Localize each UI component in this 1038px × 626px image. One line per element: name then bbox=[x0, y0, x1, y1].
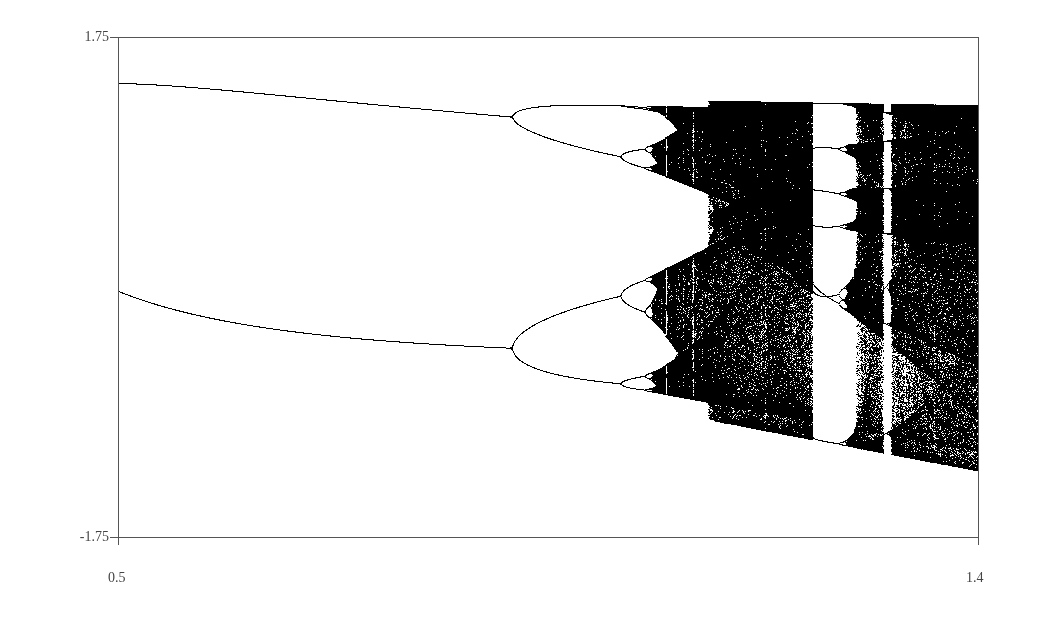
x-axis-min-label: 0.5 bbox=[108, 570, 126, 586]
y-axis-min-label: -1.75 bbox=[80, 529, 109, 545]
bifurcation-plot bbox=[0, 0, 1038, 626]
y-axis-max-label: 1.75 bbox=[85, 29, 110, 45]
x-axis-max-label: 1.4 bbox=[966, 570, 984, 586]
